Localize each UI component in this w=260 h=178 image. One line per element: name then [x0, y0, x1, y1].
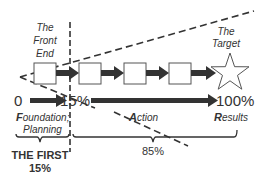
scale-mid: 15%	[60, 92, 90, 109]
foundation-rest: oundation;	[23, 112, 70, 123]
flow-arrow-1	[56, 66, 79, 80]
action-rest: ction	[137, 112, 159, 123]
target-label-1: The	[217, 26, 235, 37]
rest-85-label: 85%	[142, 145, 164, 157]
results-rest: esults	[222, 112, 248, 123]
scale-end: 100%	[216, 92, 254, 109]
bracket-85	[73, 130, 237, 142]
flow-arrow-3	[146, 66, 169, 80]
process-box-2	[79, 63, 101, 84]
action-initial: A	[128, 111, 137, 123]
results-initial: R	[214, 111, 222, 123]
scale-start: 0	[14, 92, 22, 109]
first-15-label-1: THE FIRST	[12, 149, 69, 161]
front-end-label-3: End	[36, 48, 54, 59]
front-end-diagram: The Front End The Target 0 15% 100% Foun…	[0, 0, 260, 178]
phase-results: Results	[214, 111, 248, 123]
target-label-2: Target	[212, 38, 241, 49]
action-arrow	[91, 94, 218, 107]
flow-arrow-2	[101, 66, 124, 80]
bracket-first-15	[16, 134, 69, 142]
front-end-label-1: The	[36, 22, 54, 33]
phase-action: Action	[128, 111, 159, 123]
process-box-4	[169, 63, 191, 84]
first-15-label-2: 15%	[29, 162, 51, 174]
phase-foundation: Foundation;	[16, 111, 70, 123]
process-box-3	[124, 63, 146, 84]
phase-foundation-line2: Planning	[23, 124, 62, 135]
target-star-icon	[211, 53, 249, 89]
front-end-label-2: Front	[33, 35, 58, 46]
process-box-1	[34, 63, 56, 84]
